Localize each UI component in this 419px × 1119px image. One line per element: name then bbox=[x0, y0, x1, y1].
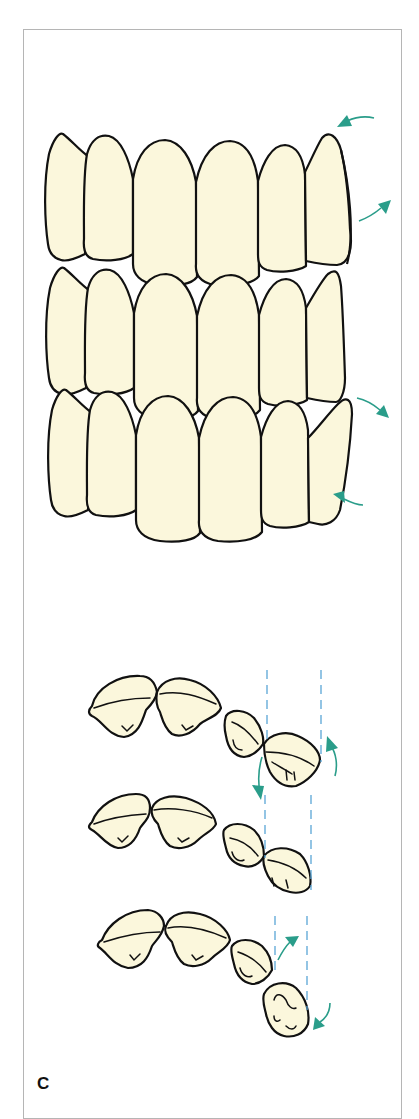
occlusal-view-1 bbox=[89, 676, 320, 786]
labial-view-2 bbox=[46, 268, 345, 420]
occlusal-view-2 bbox=[89, 794, 311, 893]
panel-label: C bbox=[37, 1074, 49, 1094]
occlusal-view-3 bbox=[98, 910, 309, 1037]
labial-view-1 bbox=[45, 134, 351, 286]
